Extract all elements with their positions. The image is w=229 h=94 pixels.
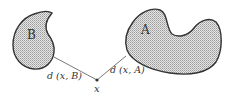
set-b-label: B xyxy=(27,28,36,42)
point-x xyxy=(95,78,98,81)
set-a-label: A xyxy=(140,23,150,37)
point-x-label: x xyxy=(94,83,100,94)
distance-diagram: B A x d (x, B) d (x, A) xyxy=(0,0,229,94)
distance-label-a: d (x, A) xyxy=(110,64,145,75)
distance-label-b: d (x, B) xyxy=(47,70,82,81)
